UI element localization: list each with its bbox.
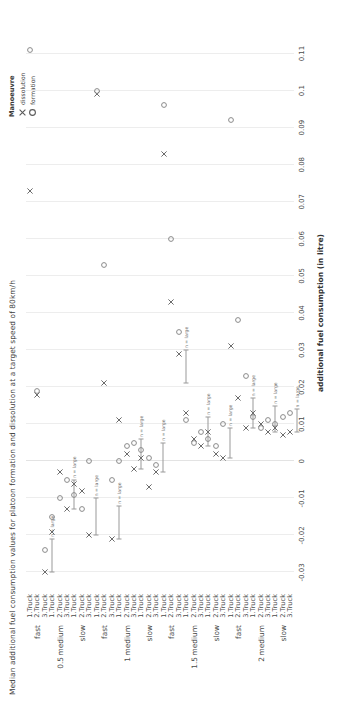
data-point-dissolution[interactable] [212, 450, 219, 457]
gridline [26, 238, 294, 239]
data-point-dissolution[interactable] [264, 428, 271, 435]
legend-title: Manoeuvre [8, 73, 16, 117]
data-point-formation[interactable] [101, 261, 108, 268]
gridline [26, 127, 294, 128]
data-point-formation[interactable] [257, 424, 264, 431]
data-point-formation[interactable] [175, 328, 182, 335]
data-point-formation[interactable] [279, 413, 286, 420]
data-point-formation[interactable] [56, 495, 63, 502]
data-point-formation[interactable] [93, 87, 100, 94]
data-point-formation[interactable] [212, 443, 219, 450]
data-point-dissolution[interactable] [26, 187, 33, 194]
data-point-formation[interactable] [168, 235, 175, 242]
data-point-formation[interactable] [26, 46, 33, 53]
annotation-range-cap [94, 535, 99, 536]
data-point-dissolution[interactable] [145, 484, 152, 491]
data-point-formation[interactable] [227, 117, 234, 124]
data-point-dissolution[interactable] [205, 428, 212, 435]
data-point-formation[interactable] [41, 547, 48, 554]
gridline [26, 164, 294, 165]
annotation-range-bar [96, 498, 97, 535]
data-point-dissolution[interactable] [183, 410, 190, 417]
x-tick-label: 0.07 [298, 194, 306, 210]
annotation-range-cap [205, 446, 210, 447]
data-point-formation[interactable] [130, 439, 137, 446]
data-point-formation[interactable] [34, 387, 41, 394]
data-point-dissolution[interactable] [63, 506, 70, 513]
annotation-range-bar [230, 428, 231, 458]
chart-figure: Median additional fuel consumption value… [0, 0, 352, 717]
y-group-label-distance: 0.5 [55, 657, 64, 669]
data-point-formation[interactable] [49, 513, 56, 520]
data-point-formation[interactable] [272, 421, 279, 428]
data-point-dissolution[interactable] [287, 428, 294, 435]
data-point-dissolution[interactable] [49, 528, 56, 535]
plot-area: n = largen = largen = largen = largen = … [26, 35, 294, 591]
x-tick-label: 0.09 [298, 120, 306, 136]
data-point-formation[interactable] [145, 454, 152, 461]
data-point-dissolution[interactable] [160, 150, 167, 157]
data-point-dissolution[interactable] [220, 454, 227, 461]
annotation-range-cap [228, 457, 233, 458]
data-point-dissolution[interactable] [138, 454, 145, 461]
data-point-dissolution[interactable] [56, 469, 63, 476]
y-group-label-distance: 2 [256, 657, 265, 662]
data-point-dissolution[interactable] [168, 298, 175, 305]
annotation-range-cap [183, 350, 188, 351]
annotation-range-cap [272, 405, 277, 406]
x-tick-label: 0.08 [298, 157, 306, 173]
x-tick-label: 0.05 [298, 268, 306, 284]
data-point-dissolution[interactable] [123, 450, 130, 457]
data-point-formation[interactable] [63, 476, 70, 483]
data-point-dissolution[interactable] [130, 465, 137, 472]
data-point-dissolution[interactable] [101, 380, 108, 387]
y-group-label-speed: slow [144, 625, 153, 641]
data-point-dissolution[interactable] [227, 343, 234, 350]
data-point-formation[interactable] [183, 417, 190, 424]
data-point-formation[interactable] [242, 373, 249, 380]
data-point-formation[interactable] [153, 461, 160, 468]
data-point-dissolution[interactable] [41, 569, 48, 576]
x-tick-label: 0 [298, 459, 306, 463]
data-point-formation[interactable] [235, 317, 242, 324]
data-point-dissolution[interactable] [279, 432, 286, 439]
data-point-dissolution[interactable] [108, 536, 115, 543]
data-point-dissolution[interactable] [235, 395, 242, 402]
data-point-dissolution[interactable] [153, 469, 160, 476]
data-point-formation[interactable] [205, 436, 212, 443]
data-point-dissolution[interactable] [197, 443, 204, 450]
data-point-dissolution[interactable] [71, 480, 78, 487]
annotation-range-cap [250, 398, 255, 399]
data-point-formation[interactable] [264, 417, 271, 424]
legend-label-dissolution: dissolution [19, 73, 26, 105]
x-tick-label: 0.01 [298, 416, 306, 432]
data-point-formation[interactable] [197, 428, 204, 435]
data-point-formation[interactable] [190, 439, 197, 446]
data-point-dissolution[interactable] [116, 417, 123, 424]
x-tick-label: 0.06 [298, 231, 306, 247]
gridline [26, 275, 294, 276]
data-point-formation[interactable] [138, 447, 145, 454]
data-point-formation[interactable] [116, 458, 123, 465]
data-point-formation[interactable] [78, 506, 85, 513]
annotation-range-cap [161, 442, 166, 443]
data-point-formation[interactable] [287, 410, 294, 417]
data-point-dissolution[interactable] [78, 487, 85, 494]
data-point-formation[interactable] [160, 102, 167, 109]
data-point-dissolution[interactable] [175, 350, 182, 357]
data-point-formation[interactable] [250, 413, 257, 420]
data-point-dissolution[interactable] [242, 424, 249, 431]
y-group-label-speed: medium [189, 625, 198, 655]
data-point-formation[interactable] [71, 491, 78, 498]
annotation-range-cap [94, 498, 99, 499]
data-point-dissolution[interactable] [86, 532, 93, 539]
data-point-formation[interactable] [86, 458, 93, 465]
x-tick-label: 0.04 [298, 305, 306, 321]
data-point-formation[interactable] [220, 421, 227, 428]
gridline [26, 312, 294, 313]
data-point-formation[interactable] [108, 476, 115, 483]
data-point-formation[interactable] [123, 443, 130, 450]
y-group-label-distance: 1 [122, 657, 131, 662]
annotation-range-cap [49, 539, 54, 540]
annotation-range-cap [116, 505, 121, 506]
